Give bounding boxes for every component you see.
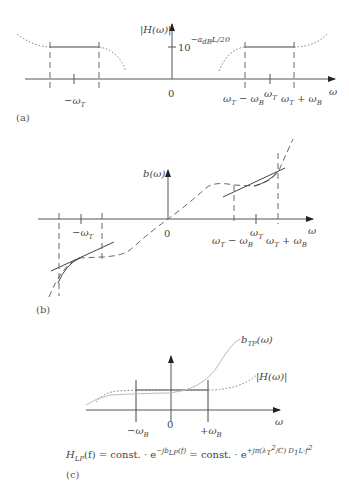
x-axis-label: ω [329,86,337,97]
tick-label-wt-plus-wb: ωT + ωB [281,93,322,107]
tick-label-neg-wb: −ωB [127,425,149,439]
y-axis-label: b(ω) [143,168,165,179]
tick-label-wt-plus-wb: ωT + ωB [266,235,307,249]
panel-c: bTP(ω) |H(ω)| −ωB 0 +ωB ω HLP(f) = const… [65,334,313,480]
x-axis-label: ω [275,416,283,427]
tick-label-wt: ωT [264,88,278,102]
panel-a-caption: (a) [16,112,30,123]
panel-c-caption: (c) [66,469,80,480]
transfer-function-equation: HLP(f) = const. · e−jbLP(f) = const. · e… [65,444,313,463]
tick-label-neg-wt: −ωT [72,227,95,241]
left-curve-segment [58,258,80,283]
panel-a: |H(ω)| 10−adBL/20 −ωT 0 ωT − ωB ωT ωT + … [16,24,337,123]
phase-curve [86,339,240,405]
figure-canvas: |H(ω)| 10−adBL/20 −ωT 0 ωT − ωB ωT ωT + … [0,0,349,500]
y-axis-label: |H(ω)| [140,24,171,36]
tick-label-wt: ωT [250,227,264,241]
curve2-label: |H(ω)| [256,371,287,383]
curve1-label: bTP(ω) [241,334,273,348]
right-inner-rolloff [219,47,245,71]
tick-label-pos-wb: +ωB [200,425,222,439]
tick-label-wt-minus-wb: ωT − ωB [212,235,253,249]
x-axis-label: ω [308,225,316,236]
tick-label-zero: 0 [167,419,173,430]
tick-label-zero: 0 [164,228,170,239]
tick-label-neg-wt: −ωT [64,95,87,109]
left-inner-rolloff [99,47,126,71]
magnitude-curve [96,374,258,402]
tick-label-zero: 0 [168,88,174,99]
panel-b: b(ω) −ωT 0 ωT − ωB ωT ωT + ωB ω (b) [36,139,316,315]
right-tangent-line [223,168,285,197]
tick-label-wt-minus-wb: ωT − ωB [223,93,264,107]
panel-b-caption: (b) [36,304,50,315]
left-outer-rolloff [17,34,50,47]
level-label: 10−adBL/20 [178,35,230,53]
right-outer-rolloff [294,34,327,47]
